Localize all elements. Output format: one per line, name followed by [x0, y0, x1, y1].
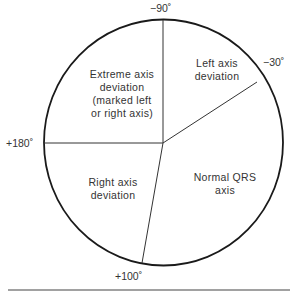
region-text-line: deviation: [74, 81, 170, 94]
line-plus-100: [142, 143, 163, 263]
region-text-line: axis: [175, 184, 275, 197]
region-extreme-axis-deviation: Extreme axis deviation (marked left or r…: [74, 68, 170, 120]
angle-minus-90-label: −90˚: [150, 2, 171, 14]
region-normal-qrs-axis: Normal QRS axis: [175, 171, 275, 197]
region-text-line: (marked left: [74, 94, 170, 107]
region-left-axis-deviation: Left axis deviation: [172, 57, 262, 83]
line-minus-30: [163, 82, 257, 143]
region-text-line: Normal QRS: [175, 171, 275, 184]
angle-minus-30-label: −30˚: [263, 56, 284, 68]
region-text-line: Right axis: [68, 176, 158, 189]
angle-plus-180-label: +180˚: [6, 137, 33, 149]
region-text-line: deviation: [68, 189, 158, 202]
angle-plus-100-label: +100˚: [115, 270, 142, 282]
region-text-line: Extreme axis: [74, 68, 170, 81]
region-text-line: or right axis): [74, 107, 170, 120]
region-text-line: deviation: [172, 70, 262, 83]
region-right-axis-deviation: Right axis deviation: [68, 176, 158, 202]
region-text-line: Left axis: [172, 57, 262, 70]
axis-circle-diagram: [0, 0, 292, 293]
